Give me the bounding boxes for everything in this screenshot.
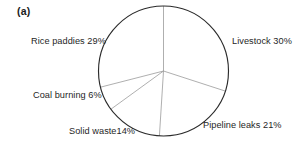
pie-slice-divider [111, 71, 164, 109]
slice-label-pipeline-leaks: Pipeline leaks 21% [203, 120, 282, 130]
slice-label-solid-waste: Solid waste14% [69, 126, 135, 136]
slice-label-rice-paddies: Rice paddies 29% [31, 36, 106, 46]
slice-label-coal-burning: Coal burning 6% [33, 90, 102, 100]
pie-slice-group [101, 6, 226, 136]
pie-chart-graphic [0, 0, 297, 155]
slice-label-livestock: Livestock 30% [232, 36, 292, 46]
pie-slice-divider [164, 71, 226, 91]
pie-slice-divider [159, 71, 163, 136]
pie-chart-figure: (a) Rice paddies 29% Livestock 30% Pipel… [0, 0, 297, 155]
pie-slice-divider [101, 71, 164, 87]
